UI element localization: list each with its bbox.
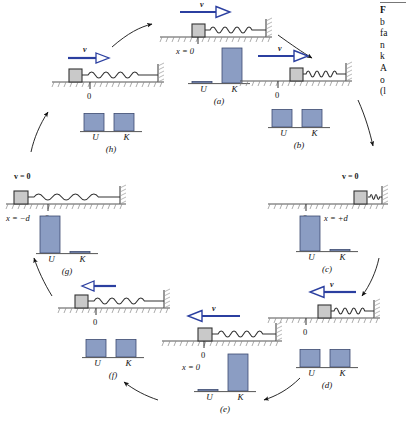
velocity-arrow-d <box>308 284 360 295</box>
bar-axis-labels-g: U K <box>36 254 98 264</box>
velocity-arrow-e <box>186 308 246 319</box>
panel-letter-e: (e) <box>194 404 256 414</box>
spring-block-apparatus-a <box>160 17 278 45</box>
velocity-label-e: v <box>212 304 216 313</box>
caption-line-8: (l <box>380 86 410 98</box>
caption-line-5: k <box>380 51 410 63</box>
velocity-arrow-h <box>68 50 116 61</box>
spring-block-apparatus-c <box>268 184 394 212</box>
velocity-label-b: v <box>278 44 282 53</box>
panel-b: v <box>240 48 358 136</box>
panel-letter-g: (g) <box>36 266 98 276</box>
bar-axis-labels-d: U K <box>296 368 358 378</box>
bar-label-u-a: U <box>188 84 219 94</box>
bar-label-u-d: U <box>296 368 327 378</box>
caption-rule <box>380 2 406 3</box>
bar-axis-labels-c: U K <box>296 252 358 262</box>
connector-h-to-a <box>112 24 152 47</box>
energy-bar-chart-g <box>36 212 98 254</box>
bar-label-k-c: K <box>327 252 358 262</box>
bar-label-u-f: U <box>82 358 113 368</box>
bar-label-k-h: K <box>111 132 142 142</box>
spring-block-apparatus-h <box>52 62 170 90</box>
energy-bar-chart-f <box>82 318 144 358</box>
bar-label-k-d: K <box>327 368 358 378</box>
spring-block-apparatus-f <box>58 288 176 316</box>
panel-letter-f: (f) <box>82 370 144 380</box>
spring-block-apparatus-g <box>6 184 132 212</box>
velocity-arrow-a <box>180 4 238 15</box>
velocity-arrow-b <box>258 48 316 59</box>
bar-axis-labels-b: U K <box>268 128 330 138</box>
panel-h: v <box>52 50 170 138</box>
velocity-label-d: v <box>330 280 334 289</box>
velocity-label-h: v <box>83 45 87 54</box>
connector-e-to-f <box>124 382 158 400</box>
bar-label-k-e: K <box>225 392 256 402</box>
energy-bar-chart-c <box>296 212 358 252</box>
panel-e: v <box>162 308 288 400</box>
caption-line-6: A <box>380 63 410 75</box>
bar-label-u-c: U <box>296 252 327 262</box>
energy-bar-chart-h <box>80 92 142 132</box>
bar-label-u-b: U <box>268 128 299 138</box>
panel-letter-b: (b) <box>268 140 330 150</box>
position-label-g: x = −d <box>6 213 30 223</box>
bar-axis-labels-h: U K <box>80 132 142 142</box>
bar-label-u-e: U <box>194 392 225 402</box>
figure-root: v <box>0 0 410 429</box>
caption-line-1: F <box>380 5 410 17</box>
bar-label-u-h: U <box>80 132 111 142</box>
velocity-label-a: v <box>200 0 204 9</box>
connector-b-to-c <box>358 100 373 146</box>
panel-letter-d: (d) <box>296 380 358 390</box>
spring-block-apparatus-e <box>162 321 288 349</box>
caption-line-4: n <box>380 40 410 52</box>
panel-c: v = 0 <box>268 172 394 260</box>
caption-line-7: o <box>380 75 410 87</box>
panel-letter-c: (c) <box>296 264 358 274</box>
figure-caption: F b fa n k A o (l <box>380 2 410 98</box>
spring-block-apparatus-b <box>240 61 358 89</box>
caption-line-2: b <box>380 17 410 29</box>
bar-axis-labels-e: U K <box>194 392 256 402</box>
energy-bar-chart-e <box>194 350 256 392</box>
panel-letter-h: (h) <box>80 144 142 154</box>
bar-label-k-f: K <box>113 358 144 368</box>
energy-bar-chart-d <box>296 328 358 368</box>
panel-g: v = 0 <box>6 172 132 264</box>
bar-axis-labels-f: U K <box>82 358 144 368</box>
velocity-zero-label-c: v = 0 <box>342 172 359 181</box>
bar-label-k-b: K <box>299 128 330 138</box>
caption-line-3: fa <box>380 28 410 40</box>
velocity-zero-label-g: v = 0 <box>14 172 31 181</box>
bar-label-k-g: K <box>67 254 98 264</box>
panel-f: 0 U K (f) <box>58 288 176 376</box>
connector-g-to-h <box>31 112 48 152</box>
bar-label-u-g: U <box>36 254 67 264</box>
energy-bar-chart-b <box>268 88 330 128</box>
